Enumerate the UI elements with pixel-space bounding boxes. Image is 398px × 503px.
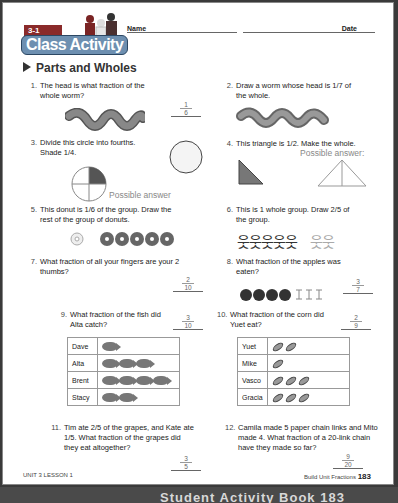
- corn-icon: [271, 341, 284, 353]
- answer-11: 35: [171, 455, 201, 471]
- answer-1: 16: [171, 101, 201, 117]
- question-1: 1.The head is what fraction of the whole…: [27, 81, 167, 101]
- worksheet-page: 3-1 Class Activity Name Date Parts and W…: [2, 2, 394, 485]
- corn-icon: [284, 392, 297, 404]
- whole-triangle: [316, 156, 368, 188]
- fish-icon: [102, 342, 117, 351]
- fish-icon: [136, 359, 151, 368]
- question-5: 5.This donut is 1/6 of the group. Draw t…: [27, 205, 187, 225]
- donut-group: [69, 231, 185, 247]
- question-7: 7.What fraction of all your fingers are …: [27, 257, 187, 277]
- fish-icon: [153, 376, 168, 385]
- footer-page-info: Build Unit Fractions 183: [304, 472, 371, 481]
- fish-icon: [119, 393, 134, 402]
- answer-10: 29: [341, 314, 371, 330]
- question-8: 8.What fraction of the apples was eaten?: [223, 257, 373, 277]
- half-triangle: [237, 156, 265, 186]
- table-row: Stacy: [68, 389, 180, 406]
- possible-answer-note: Possible answer: [109, 190, 171, 200]
- fish-pictograph: Dave Alta Brent Stacy: [67, 337, 180, 406]
- question-9: 9.What fraction of the fish did Alta cat…: [57, 310, 167, 330]
- fish-icon: [136, 376, 151, 385]
- table-row: Dave: [68, 338, 180, 355]
- fish-icon: [102, 359, 117, 368]
- fish-icon: [102, 376, 117, 385]
- class-activity-title: Class Activity: [21, 35, 128, 55]
- answer-9: 310: [173, 314, 203, 330]
- section-title: Parts and Wholes: [23, 61, 137, 75]
- corn-icon: [297, 392, 310, 404]
- corn-icon: [271, 392, 284, 404]
- fish-icon: [119, 376, 134, 385]
- table-row: Yuet: [238, 338, 350, 355]
- corn-icon: [271, 358, 284, 370]
- table-row: Vasco: [238, 372, 350, 389]
- fish-icon: [119, 359, 134, 368]
- question-6: 6.This is 1 whole group. Draw 2/5 of the…: [223, 205, 373, 225]
- play-arrow-icon: [23, 62, 31, 72]
- question-10: 10.What fraction of the corn did Yuet ea…: [217, 310, 347, 330]
- corn-pictograph: Yuet Mike Vasco Gracia: [237, 337, 350, 406]
- drawn-worm-image: [236, 106, 331, 130]
- table-row: Mike: [238, 355, 350, 372]
- date-field[interactable]: Date: [243, 25, 375, 33]
- corn-icon: [284, 341, 297, 353]
- bottom-banner: Student Activity Book 183: [0, 487, 398, 503]
- stick-figures-group: 웃웃웃웃웃 웃웃: [237, 231, 334, 251]
- worm-image: [65, 108, 145, 132]
- apples-group: [239, 287, 323, 301]
- footer-unit-lesson: UNIT 3 LESSON 1: [23, 472, 73, 478]
- table-row: Alta: [68, 355, 180, 372]
- page-number: 183: [358, 472, 371, 481]
- name-field[interactable]: Name: [127, 25, 237, 33]
- answer-8: 37: [343, 278, 373, 294]
- answer-12: 920: [333, 453, 363, 469]
- question-2: 2.Draw a worm whose head is 1/7 of the w…: [223, 81, 373, 101]
- table-row: Gracia: [238, 389, 350, 406]
- question-11: 11.Tim ate 2/5 of the grapes, and Kate a…: [51, 423, 201, 453]
- table-row: Brent: [68, 372, 180, 389]
- corn-icon: [284, 375, 297, 387]
- fish-icon: [102, 393, 117, 402]
- answer-7: 210: [173, 276, 203, 292]
- empty-circle: [169, 140, 203, 174]
- shaded-circle-fourths: [71, 166, 107, 202]
- corn-icon: [271, 375, 284, 387]
- question-12: 12.Camila made 5 paper chain links and M…: [225, 423, 385, 453]
- question-3: 3.Divide this circle into fourths. Shade…: [27, 138, 167, 158]
- corn-icon: [297, 375, 310, 387]
